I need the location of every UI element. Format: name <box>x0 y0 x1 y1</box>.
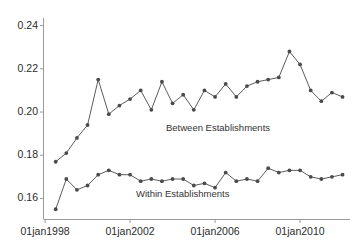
data-point-marker <box>245 177 249 181</box>
data-point-marker <box>107 112 111 116</box>
x-axis-tick-label: 01jan2002 <box>100 225 160 237</box>
data-point-marker <box>234 95 238 99</box>
data-point-marker <box>309 175 313 179</box>
data-point-marker <box>139 89 143 93</box>
data-point-marker <box>54 207 58 211</box>
x-axis-tick-label: 01jan1998 <box>15 225 75 237</box>
data-point-marker <box>96 78 100 82</box>
data-point-marker <box>298 63 302 67</box>
data-point-marker <box>234 179 238 183</box>
data-point-marker <box>192 108 196 112</box>
data-point-marker <box>224 82 228 86</box>
y-axis-tick-label: 0.24 <box>0 19 38 31</box>
data-point-marker <box>75 136 79 140</box>
data-point-marker <box>118 104 122 108</box>
data-point-marker <box>256 179 260 183</box>
data-point-marker <box>319 99 323 103</box>
data-point-marker <box>203 89 207 93</box>
data-point-marker <box>86 123 90 127</box>
data-point-marker <box>64 177 68 181</box>
data-point-marker <box>107 168 111 172</box>
data-point-marker <box>288 168 292 172</box>
data-point-marker <box>149 108 153 112</box>
data-point-marker <box>319 177 323 181</box>
data-point-marker <box>277 76 281 80</box>
data-point-marker <box>213 95 217 99</box>
y-axis-tick-label: 0.20 <box>0 105 38 117</box>
data-point-marker <box>266 78 270 82</box>
data-point-marker <box>341 95 345 99</box>
series-label-between-establishments: Between Establishments <box>166 122 270 133</box>
data-point-marker <box>75 188 79 192</box>
data-point-marker <box>128 173 132 177</box>
data-point-marker <box>160 179 164 183</box>
data-point-marker <box>171 177 175 181</box>
data-point-marker <box>160 80 164 84</box>
data-point-marker <box>203 181 207 185</box>
data-point-marker <box>266 166 270 170</box>
data-point-marker <box>86 184 90 188</box>
data-point-marker <box>277 171 281 175</box>
data-point-marker <box>139 179 143 183</box>
data-point-marker <box>288 50 292 54</box>
y-axis-tick-label: 0.22 <box>0 62 38 74</box>
series-line <box>56 52 343 162</box>
data-point-marker <box>64 151 68 155</box>
data-point-marker <box>224 171 228 175</box>
data-point-marker <box>54 160 58 164</box>
data-point-marker <box>118 173 122 177</box>
data-point-marker <box>96 173 100 177</box>
data-point-marker <box>181 93 185 97</box>
data-point-marker <box>128 97 132 101</box>
y-axis-tick-label: 0.16 <box>0 191 38 203</box>
data-point-marker <box>256 80 260 84</box>
data-point-marker <box>245 84 249 88</box>
y-axis-tick-label: 0.18 <box>0 148 38 160</box>
data-point-marker <box>330 175 334 179</box>
series-label-within-establishments: Within Establishments <box>136 188 229 199</box>
data-point-marker <box>298 168 302 172</box>
data-point-marker <box>192 184 196 188</box>
x-axis-tick-label: 01jan2006 <box>185 225 245 237</box>
data-point-marker <box>341 173 345 177</box>
data-point-marker <box>181 177 185 181</box>
data-point-marker <box>330 91 334 95</box>
data-point-marker <box>309 89 313 93</box>
chart-container: 0.160.180.200.220.24 01jan199801jan20020… <box>0 0 355 251</box>
x-axis-tick-label: 01jan2010 <box>270 225 330 237</box>
series-between-establishments <box>54 50 345 164</box>
data-point-marker <box>149 177 153 181</box>
data-point-marker <box>171 101 175 105</box>
